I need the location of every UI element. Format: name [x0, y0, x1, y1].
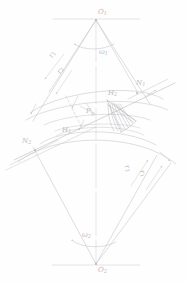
label-h2: H2 — [108, 90, 117, 97]
label-o2: O2 — [98, 267, 107, 274]
node-o2 — [95, 263, 97, 265]
tooth-outline — [107, 100, 136, 132]
lower-arc-outer — [18, 140, 176, 164]
diagram-canvas: O1 O2 ω1 ω2 P N1 N2 H1 H2 r1 r2 r2 r1 — [0, 0, 188, 283]
node-n2 — [34, 149, 36, 151]
label-omega2: ω2 — [82, 232, 91, 239]
arc-arrow-left-upper — [31, 104, 36, 114]
omega1-angle-arc — [76, 44, 114, 49]
dashed-construction-line — [66, 96, 82, 128]
label-h1: H1 — [62, 127, 71, 134]
label-pitch-point: P — [86, 108, 91, 115]
arc-arrow-left-lower — [72, 96, 78, 108]
line-of-action — [14, 83, 175, 160]
label-n2: N2 — [22, 138, 31, 145]
secondary-action-line — [6, 127, 96, 170]
label-o1: O1 — [98, 9, 107, 16]
tangent-stub-n2 — [10, 140, 58, 165]
upper-radius-rays — [33, 20, 150, 121]
node-o1 — [95, 19, 97, 21]
arc-arrow-right — [160, 152, 170, 161]
upper-arc-pitch — [26, 101, 168, 120]
label-omega1: ω1 — [99, 49, 108, 56]
node-n1 — [136, 92, 138, 94]
lower-arc-pitch — [40, 132, 156, 145]
label-n1: N1 — [136, 80, 145, 87]
